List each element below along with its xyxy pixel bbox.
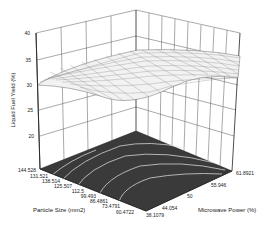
x-tick: 60.4722 bbox=[116, 209, 134, 215]
z-axis: 40 35 30 25 20 Liquid Fuel Yield (%) bbox=[10, 30, 40, 169]
x-tick: 125.507 bbox=[54, 183, 72, 189]
y-tick: 44.054 bbox=[162, 205, 178, 211]
y-tick: 55.946 bbox=[211, 182, 227, 188]
surface-plot: 40 35 30 25 20 Liquid Fuel Yield (%) 144… bbox=[0, 0, 262, 237]
z-tick: 30 bbox=[26, 82, 32, 88]
z-tick: 35 bbox=[25, 57, 31, 63]
y-tick: 61.8921 bbox=[236, 170, 254, 176]
z-tick: 25 bbox=[27, 107, 33, 113]
y-tick: 50 bbox=[187, 193, 193, 199]
z-axis-label: Liquid Fuel Yield (%) bbox=[10, 72, 16, 127]
z-tick: 40 bbox=[24, 30, 30, 36]
x-axis-label: Particle Size (mm2) bbox=[33, 207, 85, 213]
y-tick: 38.1079 bbox=[146, 212, 164, 218]
y-axis-label: Microwave Power (%) bbox=[198, 207, 256, 213]
z-tick: 20 bbox=[28, 133, 34, 139]
